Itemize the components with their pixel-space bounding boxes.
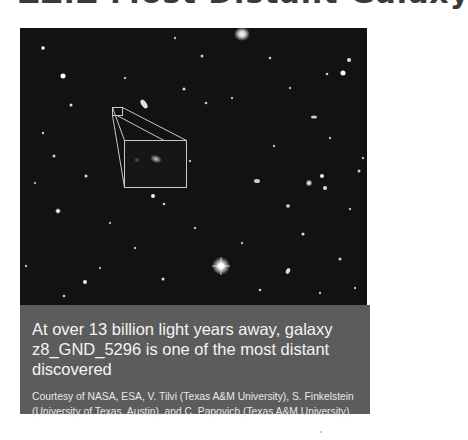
starfield-graphic — [20, 28, 367, 305]
deep-field-image — [20, 28, 367, 305]
figure-caption: At over 13 billion light years away, gal… — [20, 305, 370, 414]
caption-main-text: At over 13 billion light years away, gal… — [32, 319, 356, 379]
stray-mark — [320, 431, 322, 433]
page-heading-cropped: ZZ.Z Most Distant Galaxy — [18, 0, 468, 8]
figure: At over 13 billion light years away, gal… — [20, 28, 370, 414]
caption-credit-text: Courtesy of NASA, ESA, V. Tilvi (Texas A… — [32, 389, 356, 419]
